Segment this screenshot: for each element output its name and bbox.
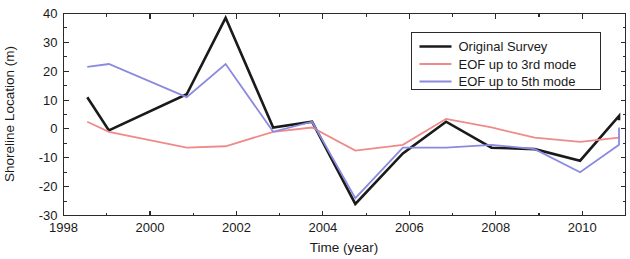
- y-tick-label: -30: [39, 208, 58, 223]
- line-chart: 1998200020022004200620082010-30-20-10010…: [0, 0, 630, 259]
- x-tick-label: 2010: [568, 220, 597, 235]
- y-tick-label: 30: [43, 35, 57, 50]
- y-tick-label: -10: [39, 150, 58, 165]
- chart-legend: Original SurveyEOF up to 3rd modeEOF up …: [412, 33, 601, 90]
- x-tick-label: 2008: [481, 220, 510, 235]
- legend-label: Original Survey: [459, 39, 548, 54]
- legend-label: EOF up to 3rd mode: [459, 57, 577, 72]
- y-tick-label: -20: [39, 179, 58, 194]
- x-tick-label: 2006: [395, 220, 424, 235]
- x-axis-title: Time (year): [310, 240, 379, 255]
- legend-label: EOF up to 5th mode: [459, 74, 576, 89]
- y-tick-label: 40: [43, 6, 57, 21]
- y-tick-label: 20: [43, 64, 57, 79]
- y-tick-label: 0: [50, 121, 57, 136]
- y-axis-title: Shoreline Location (m): [2, 46, 17, 182]
- series-line: [87, 119, 619, 151]
- x-tick-label: 2004: [308, 220, 337, 235]
- chart-figure: 1998200020022004200620082010-30-20-10010…: [0, 0, 630, 259]
- x-tick-label: 2002: [222, 220, 251, 235]
- y-tick-label: 10: [43, 93, 57, 108]
- x-tick-label: 2000: [136, 220, 165, 235]
